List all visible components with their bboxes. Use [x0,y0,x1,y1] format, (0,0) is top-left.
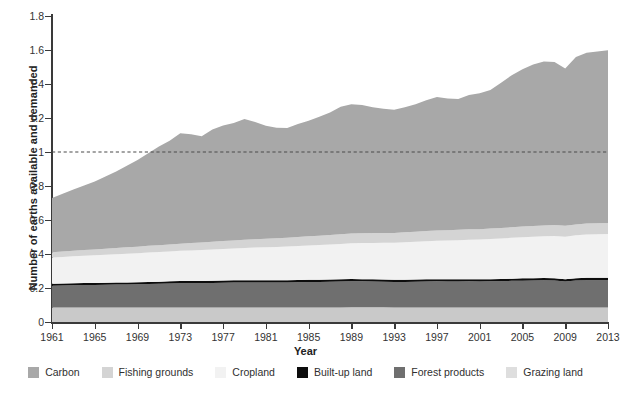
x-tick-label: 2001 [458,331,502,343]
x-tick [180,323,181,329]
x-tick-label: 2005 [500,331,544,343]
x-tick [52,323,53,329]
y-tick [45,50,52,51]
x-tick [480,323,481,329]
x-tick-label: 2009 [543,331,587,343]
y-tick-label: 0.4 [0,248,44,260]
plot-area [52,16,608,322]
x-axis-line [51,322,609,324]
y-tick-label: 0.8 [0,180,44,192]
x-tick [223,323,224,329]
x-tick-label: 1973 [158,331,202,343]
legend-item[interactable]: Carbon [28,366,79,378]
y-tick [45,288,52,289]
legend-swatch-icon [394,367,405,378]
legend-item-label: Fishing grounds [119,366,194,378]
x-tick [95,323,96,329]
legend-swatch-icon [28,367,39,378]
x-tick-label: 1961 [30,331,74,343]
legend-item-label: Grazing land [523,366,583,378]
legend-item[interactable]: Fishing grounds [102,366,194,378]
legend-swatch-icon [506,367,517,378]
y-tick-label: 1.8 [0,10,44,22]
y-tick [45,118,52,119]
legend-item-label: Forest products [411,366,484,378]
area-series-carbon [52,50,608,252]
legend-item-label: Built-up land [314,366,372,378]
x-tick [138,323,139,329]
stacked-area-series [52,16,608,322]
legend-item[interactable]: Grazing land [506,366,583,378]
y-tick [45,152,52,153]
x-tick [437,323,438,329]
x-tick-label: 2013 [586,331,624,343]
y-tick [45,84,52,85]
x-tick-label: 1969 [116,331,160,343]
x-tick-label: 1989 [329,331,373,343]
y-tick [45,254,52,255]
y-tick-label: 0 [0,316,44,328]
legend-item[interactable]: Cropland [215,366,275,378]
x-tick [565,323,566,329]
y-tick-label: 0.6 [0,214,44,226]
x-axis-title: Year [0,345,611,357]
y-tick [45,16,52,17]
x-tick [266,323,267,329]
x-tick-label: 1993 [372,331,416,343]
y-tick-label: 1.4 [0,78,44,90]
y-tick-label: 1.2 [0,112,44,124]
x-tick-label: 1981 [244,331,288,343]
y-tick-label: 1.6 [0,44,44,56]
x-tick [351,323,352,329]
legend-swatch-icon [102,367,113,378]
chart-legend: CarbonFishing groundsCroplandBuilt-up la… [0,366,611,378]
y-tick-label: 1 [0,146,44,158]
x-tick [394,323,395,329]
x-tick-label: 1965 [73,331,117,343]
y-tick [45,220,52,221]
legend-item-label: Cropland [232,366,275,378]
x-tick [608,323,609,329]
x-tick [309,323,310,329]
area-series-grazing-land [52,307,608,322]
x-tick-label: 1977 [201,331,245,343]
legend-swatch-icon [215,367,226,378]
x-tick [522,323,523,329]
x-tick-label: 1997 [415,331,459,343]
legend-item[interactable]: Built-up land [297,366,372,378]
legend-item[interactable]: Forest products [394,366,484,378]
y-tick-label: 0.2 [0,282,44,294]
legend-swatch-icon [297,367,308,378]
y-tick [45,322,52,323]
y-tick [45,186,52,187]
legend-item-label: Carbon [45,366,79,378]
x-tick-label: 1985 [287,331,331,343]
